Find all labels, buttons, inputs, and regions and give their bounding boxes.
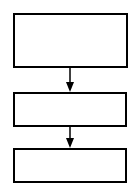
arrow-box2-to-box3 [66, 127, 74, 148]
connector-arrows [0, 0, 136, 193]
arrowhead-icon [66, 138, 74, 148]
arrowhead-icon [66, 82, 74, 92]
arrow-box1-to-box2 [66, 68, 74, 92]
